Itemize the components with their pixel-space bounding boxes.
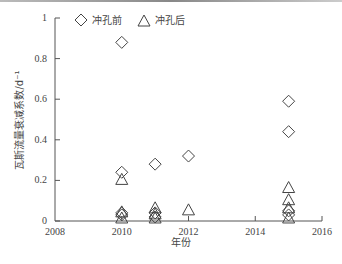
diamond-marker [283, 95, 295, 107]
x-tick-label: 2012 [179, 226, 199, 237]
legend-item-after: 冲孔后 [138, 14, 185, 26]
diamond-marker [283, 126, 295, 138]
legend-label-after: 冲孔后 [155, 14, 185, 26]
triangle-marker [283, 182, 295, 193]
diamond-marker [149, 158, 161, 170]
x-axis-title: 年份 [171, 236, 191, 248]
x-tick-label: 2010 [112, 226, 132, 237]
triangle-marker [183, 204, 195, 215]
diamond-marker [283, 205, 295, 217]
legend-item-before: 冲孔前 [75, 14, 122, 26]
x-tick-label: 2014 [245, 226, 265, 237]
triangle-icon [138, 15, 150, 26]
y-axis-title: 瓦斯流量衰减系数/d⁻¹ [13, 70, 25, 169]
diamond-marker [116, 166, 128, 178]
diamond-icon [75, 14, 87, 26]
y-tick-label: 0.6 [35, 93, 48, 104]
y-tick-label: 0.8 [35, 53, 48, 64]
diamond-marker [116, 36, 128, 48]
y-tick-label: 0.2 [35, 174, 48, 185]
legend: 冲孔前 冲孔后 [75, 14, 185, 26]
diamond-marker [183, 150, 195, 162]
y-tick-label: 0 [42, 215, 47, 226]
data-markers [116, 36, 295, 223]
scatter-chart: 00.20.40.60.8120082010201220142016 冲孔前 冲… [0, 0, 342, 264]
x-tick-label: 2016 [312, 226, 332, 237]
x-tick-label: 2008 [45, 226, 65, 237]
legend-label-before: 冲孔前 [92, 14, 122, 26]
y-tick-label: 1 [42, 12, 47, 23]
y-tick-label: 0.4 [35, 134, 48, 145]
triangle-marker [283, 194, 295, 205]
